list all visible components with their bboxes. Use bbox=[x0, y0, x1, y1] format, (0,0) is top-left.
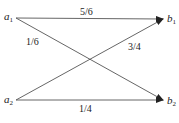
edge-label-a2-b2: 1/4 bbox=[79, 104, 92, 114]
node-b2-sub: 2 bbox=[173, 100, 177, 108]
node-b1: b1 bbox=[167, 13, 176, 28]
node-a1-sub: 1 bbox=[10, 16, 14, 24]
edge-a1-b1 bbox=[16, 18, 163, 19]
edge-label-a1-b2: 1/6 bbox=[26, 37, 39, 47]
node-a2-sub: 2 bbox=[10, 99, 14, 107]
node-b1-sub: 1 bbox=[173, 18, 177, 26]
edge-label-a1-b1: 5/6 bbox=[80, 7, 93, 17]
edge-label-a2-b1: 3/4 bbox=[128, 42, 141, 52]
node-a1: a1 bbox=[4, 11, 13, 26]
node-b2: b2 bbox=[167, 95, 176, 110]
node-a2: a2 bbox=[4, 94, 13, 109]
